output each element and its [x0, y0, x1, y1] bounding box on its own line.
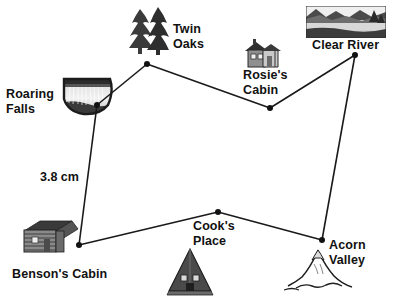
trail-node-twin-oaks[interactable] — [144, 61, 150, 67]
trail-edge-roaring-falls-to-twin-oaks — [97, 64, 147, 105]
distance-label-3-8-cm: 3.8 cm — [40, 170, 79, 184]
trail-map-diagram: Roaring Falls Twin Oaks Rosie's Cabin Cl… — [0, 0, 399, 304]
node-label-twin-oaks: Twin Oaks — [173, 22, 204, 51]
trail-node-rosies-cabin[interactable] — [267, 105, 273, 111]
trail-node-bensons-cabin[interactable] — [76, 242, 82, 248]
node-label-rosies-cabin: Rosie's Cabin — [243, 68, 288, 97]
node-label-acorn-valley: Acorn Valley — [329, 238, 366, 267]
node-label-clear-river: Clear River — [312, 38, 379, 53]
trail-edge-bensons-cabin-to-roaring-falls — [79, 105, 97, 245]
trail-node-clear-river[interactable] — [352, 52, 358, 58]
node-label-bensons-cabin: Benson's Cabin — [12, 267, 107, 282]
trail-node-roaring-falls[interactable] — [94, 102, 100, 108]
node-label-cooks-place: Cook's Place — [193, 219, 235, 248]
trail-node-cooks-place[interactable] — [215, 209, 221, 215]
node-label-roaring-falls: Roaring Falls — [6, 87, 54, 116]
trail-edge-clear-river-to-acorn-valley — [322, 55, 355, 240]
trail-node-acorn-valley[interactable] — [319, 237, 325, 243]
